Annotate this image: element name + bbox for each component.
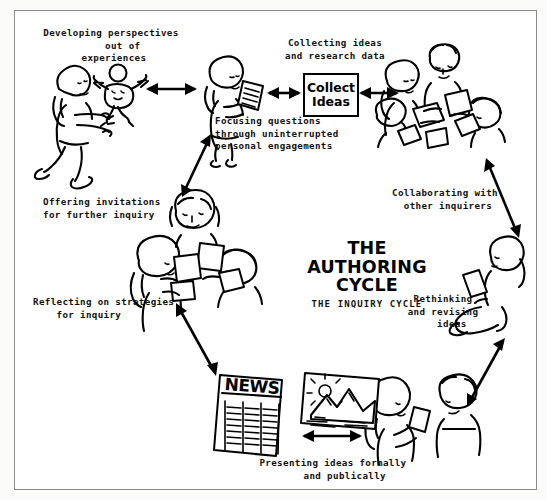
arrow-rethinking-to-presenting bbox=[467, 338, 505, 406]
caption-presenting-ideas: Presenting ideas formally and publically bbox=[243, 457, 423, 482]
page-subtitle: THE INQUIRY CYCLE bbox=[287, 299, 447, 309]
book-icon bbox=[238, 81, 263, 110]
collect-ideas-box: Collect Ideas bbox=[303, 73, 359, 117]
figure-page: Developing perspectives out of experienc… bbox=[0, 0, 547, 500]
caption-developing-perspectives: Developing perspectives out of experienc… bbox=[31, 27, 191, 65]
illustration-woman-and-child bbox=[35, 65, 148, 189]
illustration-two-people-presenting bbox=[365, 374, 480, 465]
caption-focusing-questions: Focusing questions through uninterrupted… bbox=[215, 115, 395, 153]
arrow-presenting-horizontal bbox=[302, 430, 362, 442]
arrow-developing-to-focusing bbox=[146, 83, 197, 95]
arrow-offering-to-focusing bbox=[181, 134, 211, 197]
illustration-landscape-picture bbox=[301, 373, 379, 429]
caption-offering-invitations: Offering invitations for further inquiry bbox=[43, 196, 213, 221]
caption-collecting-ideas: Collecting ideas and research data bbox=[260, 37, 410, 62]
figure-frame: Developing perspectives out of experienc… bbox=[14, 10, 537, 490]
collect-ideas-line1: Collect bbox=[307, 81, 355, 95]
caption-collaborating: Collaborating with other inquirers bbox=[370, 187, 520, 212]
newspaper-masthead: NEWS bbox=[223, 374, 280, 398]
collect-ideas-line2: Ideas bbox=[312, 95, 350, 109]
page-title: THE AUTHORING CYCLE bbox=[287, 239, 447, 295]
authoring-cycle-artwork bbox=[15, 11, 538, 491]
arrow-focusing-to-collect bbox=[267, 87, 301, 99]
caption-reflecting-strategies: Reflecting on strategies for inquiry bbox=[33, 296, 203, 321]
